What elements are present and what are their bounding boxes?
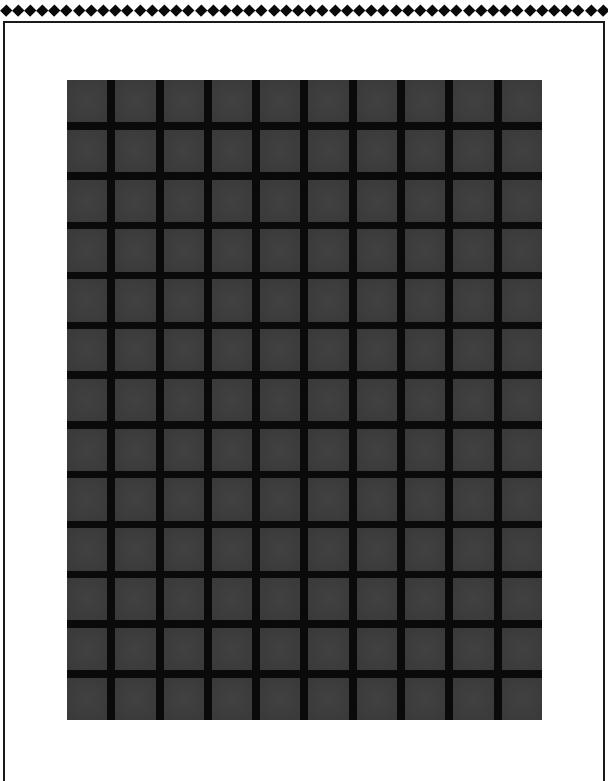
diamond-icon	[183, 4, 195, 18]
grid-cell	[405, 478, 445, 520]
grid-cell	[357, 379, 397, 421]
grid-cell	[357, 279, 397, 321]
diamond-icon	[61, 4, 73, 18]
grid-cell	[308, 578, 348, 620]
diamond-icon	[85, 4, 97, 18]
grid-cell	[260, 80, 300, 122]
grid-cell	[164, 578, 204, 620]
grid-cell	[405, 429, 445, 471]
grid-cell	[164, 379, 204, 421]
diamond-icon	[378, 4, 390, 18]
diamond-icon	[317, 4, 329, 18]
grid-cell	[212, 478, 252, 520]
grid-cell	[67, 279, 107, 321]
diamond-icon	[439, 4, 451, 18]
grid-cell	[260, 478, 300, 520]
grid-cell	[67, 578, 107, 620]
grid-cell	[115, 279, 155, 321]
grid-cell	[212, 279, 252, 321]
diamond-icon	[268, 4, 280, 18]
grid-cell	[67, 130, 107, 172]
diamond-icon	[232, 4, 244, 18]
grid-cell	[308, 678, 348, 720]
grid-cell	[260, 180, 300, 222]
diamond-icon	[512, 4, 524, 18]
grid-cell	[405, 678, 445, 720]
grid-cell	[453, 279, 493, 321]
grid-cell	[453, 329, 493, 371]
grid-cell	[357, 678, 397, 720]
diamond-icon	[561, 4, 573, 18]
diamond-icon	[548, 4, 560, 18]
grid-cell	[502, 578, 542, 620]
grid-cell	[502, 229, 542, 271]
decorative-diamond-border	[0, 4, 608, 18]
diamond-icon	[390, 4, 402, 18]
grid-cell	[357, 130, 397, 172]
diamond-icon	[414, 4, 426, 18]
grid-cell	[164, 329, 204, 371]
grid-cell	[405, 279, 445, 321]
grid-cell	[453, 429, 493, 471]
dark-grid-pattern	[67, 80, 542, 720]
diamond-icon	[110, 4, 122, 18]
grid-cell	[308, 229, 348, 271]
grid-cell	[164, 429, 204, 471]
grid-cell	[260, 130, 300, 172]
grid-cell	[212, 429, 252, 471]
diamond-icon	[402, 4, 414, 18]
diamond-icon	[256, 4, 268, 18]
grid-cell	[67, 429, 107, 471]
grid-cell	[260, 279, 300, 321]
grid-cell	[357, 329, 397, 371]
diamond-icon	[500, 4, 512, 18]
diamond-icon	[219, 4, 231, 18]
grid-cell	[405, 80, 445, 122]
grid-cell	[67, 180, 107, 222]
grid-cell	[502, 130, 542, 172]
grid-cell	[67, 478, 107, 520]
diamond-icon	[488, 4, 500, 18]
grid-cell	[308, 628, 348, 670]
grid-cell	[164, 80, 204, 122]
grid-cell	[212, 80, 252, 122]
grid-cell	[357, 429, 397, 471]
grid-cell	[405, 180, 445, 222]
grid-cell	[453, 379, 493, 421]
grid-cell	[115, 80, 155, 122]
diamond-icon	[122, 4, 134, 18]
grid-cell	[357, 578, 397, 620]
diamond-icon	[329, 4, 341, 18]
grid-cell	[405, 329, 445, 371]
diamond-icon	[597, 4, 608, 18]
grid-cell	[67, 229, 107, 271]
diamond-icon	[585, 4, 597, 18]
grid-cell	[212, 678, 252, 720]
grid-cell	[164, 279, 204, 321]
grid-cell	[212, 229, 252, 271]
grid-cell	[260, 678, 300, 720]
grid-cell	[67, 80, 107, 122]
diamond-icon	[280, 4, 292, 18]
grid-cell	[212, 628, 252, 670]
grid-cell	[212, 130, 252, 172]
grid-cell	[260, 329, 300, 371]
grid-cell	[502, 429, 542, 471]
grid-cell	[212, 528, 252, 570]
grid-cell	[260, 229, 300, 271]
grid-cell	[405, 130, 445, 172]
grid-cell	[212, 578, 252, 620]
diamond-icon	[24, 4, 36, 18]
diamond-icon	[366, 4, 378, 18]
grid-cell	[260, 578, 300, 620]
grid-cell	[115, 180, 155, 222]
grid-cell	[164, 678, 204, 720]
grid-cell	[67, 379, 107, 421]
grid-cell	[453, 180, 493, 222]
grid-cell	[115, 130, 155, 172]
grid-cell	[67, 528, 107, 570]
diamond-icon	[451, 4, 463, 18]
grid-cell	[357, 478, 397, 520]
grid-cell	[357, 180, 397, 222]
grid-cell	[67, 628, 107, 670]
